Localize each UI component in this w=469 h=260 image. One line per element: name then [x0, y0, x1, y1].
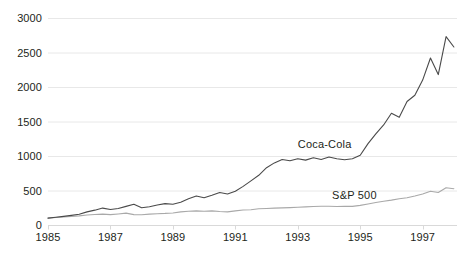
x-tick-label: 1989: [151, 232, 195, 243]
y-tick-label: 1500: [2, 117, 42, 128]
x-tick-marks: [49, 226, 424, 230]
series-label-sp500: S&P 500: [332, 190, 377, 201]
chart-plot-area: [0, 0, 469, 260]
x-tick-label: 1991: [213, 232, 257, 243]
y-tick-label: 500: [2, 186, 42, 197]
x-tick-label: 1987: [88, 232, 132, 243]
y-tick-label: 0: [2, 220, 42, 231]
x-tick-label: 1993: [276, 232, 320, 243]
y-tick-label: 2000: [2, 82, 42, 93]
series-line-sp500: [48, 188, 454, 218]
series-label-coca-cola: Coca-Cola: [298, 139, 352, 150]
y-tick-label: 1000: [2, 151, 42, 162]
x-tick-label: 1985: [26, 232, 70, 243]
gridlines: [48, 19, 457, 192]
x-tick-label: 1997: [401, 232, 445, 243]
y-tick-label: 3000: [2, 13, 42, 24]
stock-performance-chart: 050010001500200025003000 198519871989199…: [0, 0, 469, 260]
y-tick-label: 2500: [2, 48, 42, 59]
x-tick-label: 1995: [338, 232, 382, 243]
